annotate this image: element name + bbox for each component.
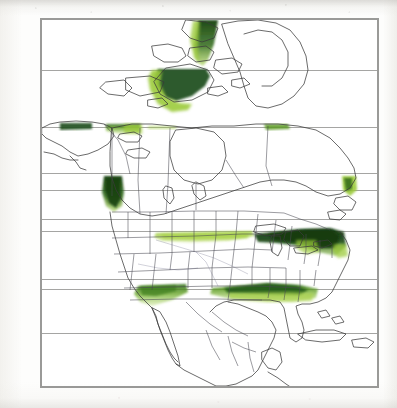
- range-alaska-north-slope: [60, 123, 92, 130]
- map-background: [41, 19, 378, 387]
- figure-page: [0, 0, 397, 408]
- north-america-distribution-map: [0, 0, 397, 408]
- range-hudson-bay-west-coast: [148, 126, 176, 129]
